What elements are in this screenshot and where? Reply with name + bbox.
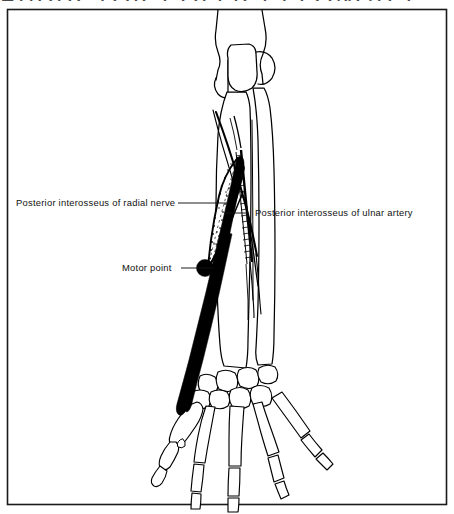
skeleton-group bbox=[151, 10, 333, 512]
index-middle-phalanx bbox=[191, 493, 201, 509]
figure-drawing bbox=[0, 0, 454, 514]
interosseous-space-line bbox=[252, 120, 253, 300]
label-motor-point: Motor point bbox=[122, 262, 172, 273]
anatomical-figure: ABDUCTOR POLLICIS LONGUS bbox=[0, 0, 454, 514]
little-middle-phalanx bbox=[316, 453, 333, 470]
metacarpal-3 bbox=[229, 406, 244, 466]
distal-phalanges bbox=[151, 466, 167, 487]
thumb-distal-phalanx bbox=[151, 466, 167, 487]
carpal-trapezoid bbox=[209, 390, 230, 409]
ulna-bone bbox=[253, 88, 275, 365]
olecranon-process bbox=[227, 44, 257, 92]
metacarpal-5 bbox=[272, 392, 310, 438]
carpal-triquetrum bbox=[237, 368, 259, 389]
little-proximal-phalanx bbox=[301, 434, 322, 457]
middle-middle-phalanx bbox=[228, 498, 239, 512]
label-posterior-interosseous-ulnar-artery: Posterior interosseus of ulnar artery bbox=[255, 207, 413, 218]
thumb-proximal-phalanx bbox=[159, 442, 178, 470]
ring-proximal-phalanx bbox=[268, 455, 284, 482]
lateral-epicondyle bbox=[256, 52, 275, 85]
carpal-pisiform bbox=[258, 365, 278, 384]
label-posterior-interosseous-radial-nerve: Posterior interosseus of radial nerve bbox=[16, 197, 175, 208]
carpal-bones bbox=[190, 365, 277, 409]
index-proximal-phalanx bbox=[191, 464, 204, 492]
metacarpal-4 bbox=[253, 402, 279, 456]
middle-proximal-phalanx bbox=[228, 468, 240, 496]
ring-middle-phalanx bbox=[275, 481, 289, 499]
middle-phalanges bbox=[191, 453, 333, 512]
carpal-capitate bbox=[229, 388, 251, 409]
